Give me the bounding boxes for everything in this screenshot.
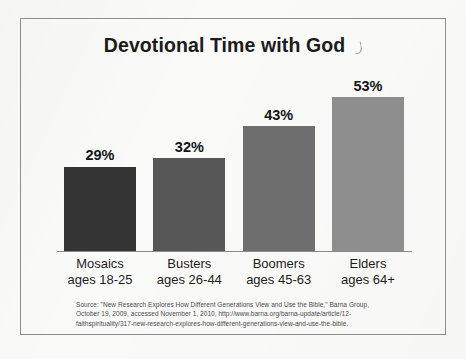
category-sublabel: ages 45-63 bbox=[243, 272, 315, 288]
category-sublabel: ages 64+ bbox=[332, 272, 404, 288]
x-axis-tick-labels: Mosaics ages 18-25 Busters ages 26-44 Bo… bbox=[64, 256, 404, 287]
bar-group-busters: 32% bbox=[153, 66, 225, 251]
chart-title-text: Devotional Time with God bbox=[104, 34, 345, 56]
category-label-elders: Elders ages 64+ bbox=[332, 256, 404, 287]
scanned-page: Devotional Time with God 29% 32% 43% 53% bbox=[0, 0, 466, 359]
bar-rect-elders[interactable] bbox=[332, 97, 404, 251]
bar-value-label: 29% bbox=[85, 148, 114, 163]
bar-rect-busters[interactable] bbox=[153, 158, 225, 251]
source-line-3: faithspirituality/317-new-research-explo… bbox=[76, 319, 432, 328]
bar-value-label: 53% bbox=[353, 79, 382, 94]
bar-rect-mosaics[interactable] bbox=[64, 167, 136, 251]
category-name: Busters bbox=[153, 256, 225, 272]
category-label-mosaics: Mosaics ages 18-25 bbox=[64, 256, 136, 287]
x-axis-baseline bbox=[57, 251, 412, 252]
category-label-busters: Busters ages 26-44 bbox=[153, 256, 225, 287]
category-label-boomers: Boomers ages 45-63 bbox=[243, 256, 315, 287]
category-sublabel: ages 18-25 bbox=[64, 272, 136, 288]
source-line-1: Source: "New Research Explores How Diffe… bbox=[76, 300, 432, 309]
source-citation: Source: "New Research Explores How Diffe… bbox=[76, 300, 432, 328]
page-title: Devotional Time with God bbox=[21, 34, 445, 57]
bar-series: 29% 32% 43% 53% bbox=[64, 66, 404, 251]
bar-group-mosaics: 29% bbox=[64, 66, 136, 251]
category-name: Mosaics bbox=[64, 256, 136, 272]
category-name: Elders bbox=[332, 256, 404, 272]
bar-rect-boomers[interactable] bbox=[243, 126, 315, 251]
bar-value-label: 43% bbox=[264, 108, 293, 123]
source-line-2: October 19, 2009, accessed November 1, 2… bbox=[76, 309, 432, 318]
bar-chart-plot-area: 29% 32% 43% 53% bbox=[64, 66, 404, 251]
pen-stroke-artifact-icon bbox=[352, 40, 362, 54]
category-sublabel: ages 26-44 bbox=[153, 272, 225, 288]
figure-frame: Devotional Time with God 29% 32% 43% 53% bbox=[20, 18, 446, 335]
bar-group-boomers: 43% bbox=[243, 66, 315, 251]
category-name: Boomers bbox=[243, 256, 315, 272]
bar-group-elders: 53% bbox=[332, 66, 404, 251]
bar-value-label: 32% bbox=[175, 140, 204, 155]
